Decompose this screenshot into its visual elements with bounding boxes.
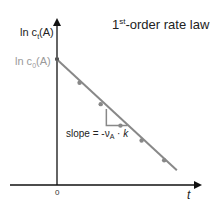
slope-triangle	[106, 109, 127, 126]
y-axis-label: ln ct(A)	[20, 26, 54, 40]
data-point	[77, 81, 81, 85]
y-intercept-label: ln c0(A)	[15, 55, 51, 69]
data-point	[99, 102, 103, 106]
chart-title: 1st-order rate law	[112, 17, 210, 32]
data-point	[139, 138, 143, 142]
data-point	[162, 158, 166, 162]
slope-annotation: slope = -νA · k	[66, 128, 129, 140]
x-tick-0: 0	[55, 188, 60, 197]
trend-line	[57, 60, 177, 171]
x-axis-label: t	[187, 188, 191, 202]
rate-law-chart: 1st-order rate law ln ct(A) ln c0(A) 0 t…	[0, 0, 210, 207]
intercept-marker	[55, 58, 59, 61]
